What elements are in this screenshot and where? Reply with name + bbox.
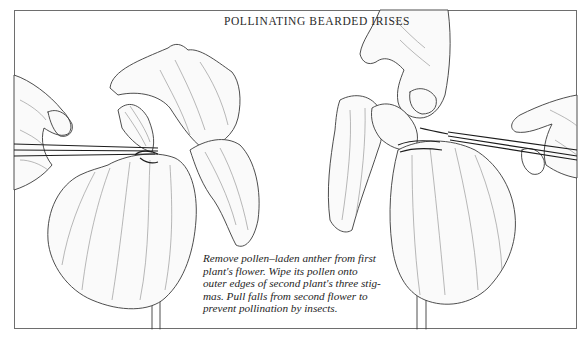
caption-line: prevent pollination by insects. (203, 302, 413, 315)
caption-line: plant's flower. Wipe its pollen onto (203, 265, 413, 278)
caption-line: outer edges of second plant's three stig… (203, 277, 413, 290)
caption-line: mas. Pull falls from second flower to (203, 290, 413, 303)
figure-caption: Remove pollen–laden anther from first pl… (203, 252, 413, 315)
caption-line: Remove pollen–laden anther from first (203, 252, 413, 265)
figure-title: POLLINATING BEARDED IRISES (212, 15, 422, 27)
